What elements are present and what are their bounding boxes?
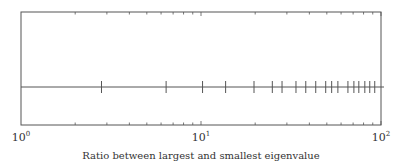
x-tick-label: 101 (192, 130, 210, 144)
x-axis-title: Ratio between largest and smallest eigen… (82, 150, 319, 161)
x-tick-labels: 100101102 (12, 130, 390, 144)
chart: 100101102 Ratio between largest and smal… (0, 0, 408, 166)
minor-ticks (75, 12, 381, 125)
x-tick-label: 102 (372, 130, 390, 144)
plot-frame (21, 12, 381, 125)
x-tick-label: 100 (12, 130, 30, 144)
